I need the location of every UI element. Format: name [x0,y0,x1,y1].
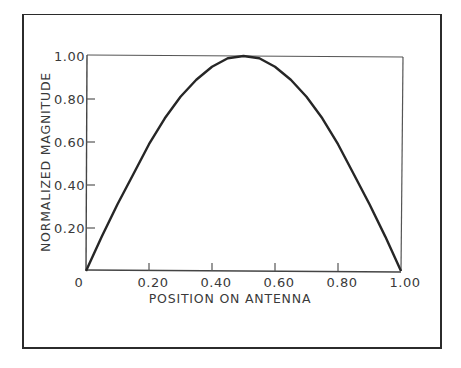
y-tick-label: 0.40 [54,178,85,193]
y-tick-label: 0.20 [54,221,85,236]
x-axis [86,270,401,272]
x-axis-title: POSITION ON ANTENNA [149,291,312,306]
data-line [86,56,401,271]
x-tick-label: 1.00 [390,275,421,290]
y-tick-label: 1.00 [54,49,85,64]
line-chart: 0.200.400.600.801.00 00.200.400.600.801.… [0,0,461,368]
plot-area [86,55,403,272]
x-tick-label: 0.80 [327,275,358,290]
x-tick-label: 0.40 [201,275,232,290]
y-tick-label: 0.60 [54,135,85,150]
x-tick-label: 0 [75,275,84,290]
y-axis-title: NORMALIZED MAGNITUDE [38,72,53,252]
right-border [401,57,403,271]
y-axis [86,55,87,270]
y-tick-label: 0.80 [54,92,85,107]
x-tick-label: 0.20 [138,275,169,290]
x-ticks: 00.200.400.600.801.00 [75,263,421,290]
x-tick-label: 0.60 [264,275,295,290]
y-ticks: 0.200.400.600.801.00 [54,49,95,236]
